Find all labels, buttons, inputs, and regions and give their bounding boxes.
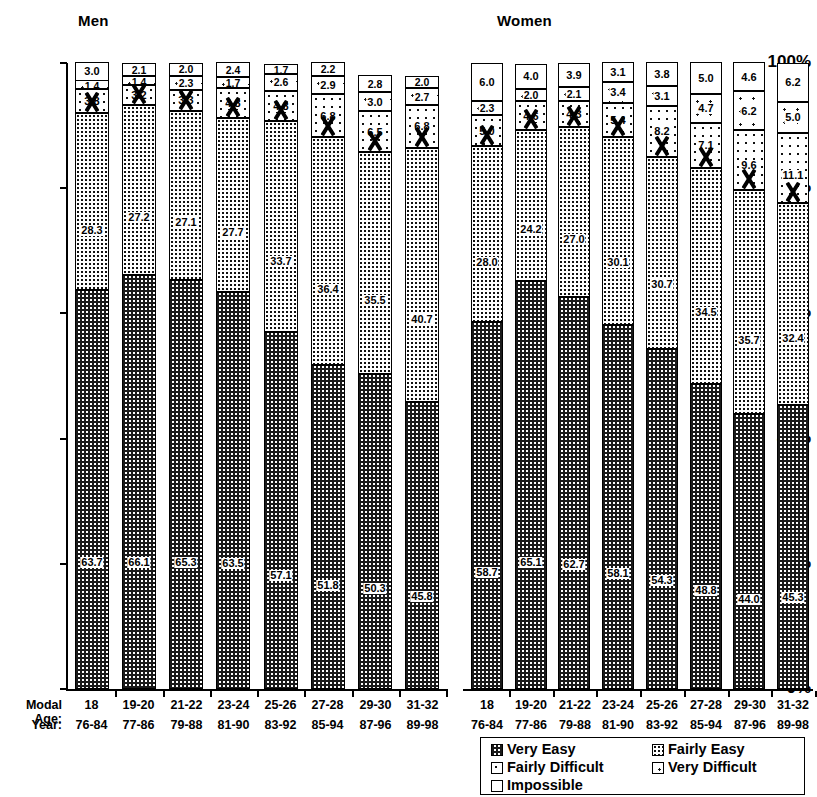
bar-segment-fairly-easy: 30.1	[602, 137, 634, 325]
bar-segment-value-label: 6.8	[413, 121, 430, 132]
bar-segment-value-label: 3.3	[177, 95, 194, 106]
x-axis-modal-age-label: 19-20	[509, 698, 553, 712]
legend-item-very-easy[interactable]: Very Easy	[491, 742, 576, 757]
legend-item-fairly-easy[interactable]: Fairly Easy	[652, 742, 745, 757]
legend-item-very-difficult[interactable]: Very Difficult	[652, 760, 757, 775]
bar-column: 54.330.78.23.13.8	[646, 63, 678, 689]
bar-segment-value-label: 30.7	[650, 279, 673, 290]
legend-row: Fairly Difficult Very Difficult	[489, 760, 798, 778]
legend: Very Easy Fairly Easy Fairly Difficult V…	[480, 737, 805, 795]
bar-segment-value-label: 1.4	[84, 81, 101, 89]
x-axis-year-label: 81-90	[596, 718, 640, 732]
bar-segment-value-label: 4.8	[224, 98, 241, 109]
bar-segment-fairly-difficult: 3.8	[75, 89, 109, 113]
bar-segment-value-label: 33.7	[269, 256, 292, 267]
y-axis-tick-mark	[60, 187, 67, 189]
x-axis-modal-age-label: 29-30	[728, 698, 772, 712]
bar-segment-fairly-easy: 36.4	[311, 137, 345, 365]
y-axis-tick-mark	[60, 438, 67, 440]
bar-segment-value-label: 3.1	[609, 67, 626, 78]
bar-column: 50.335.56.53.02.8	[358, 63, 392, 689]
bar-segment-very-easy: 66.1	[122, 275, 156, 689]
legend-label: Impossible	[507, 778, 583, 793]
bar-segment-fairly-difficult: 3.3	[169, 90, 203, 111]
bar-segment-value-label: 3.8	[83, 96, 100, 107]
bar-segment-impossible: 1.7	[264, 64, 298, 75]
x-axis-modal-age-label: 19-20	[115, 698, 162, 712]
bar-segment-value-label: 2.7	[414, 92, 431, 103]
bar-segment-value-label: 5.0	[697, 73, 714, 84]
bar-segment-impossible: 6.2	[777, 63, 809, 102]
bar-column: 45.332.411.15.06.2	[777, 63, 809, 689]
bar-segment-impossible: 4.0	[515, 64, 547, 89]
bar-segment-value-label: 58.7	[475, 567, 498, 578]
x-axis-modal-age-label: 18	[465, 698, 509, 712]
legend-item-impossible[interactable]: Impossible	[491, 778, 583, 793]
x-axis-tick-mark	[596, 691, 598, 697]
bar-segment-value-label: 2.3	[479, 103, 496, 114]
panel-title-men: Men	[78, 12, 109, 29]
bar-segment-value-label: 8.2	[653, 126, 670, 137]
bar-segment-value-label: 4.6	[740, 72, 757, 83]
bar-segment-value-label: 36.4	[316, 284, 339, 295]
x-axis-modal-age-label: 27-28	[304, 698, 351, 712]
bar-segment-value-label: 34.5	[694, 307, 717, 318]
x-axis-modal-age-label: 31-32	[399, 698, 446, 712]
bar-segment-value-label: 50.3	[363, 583, 386, 594]
bar-segment-very-easy: 63.5	[216, 292, 250, 690]
bar-segment-value-label: 44.0	[737, 594, 760, 605]
bar-segment-very-easy: 58.7	[471, 322, 503, 689]
bar-segment-value-label: 51.8	[316, 580, 339, 591]
bar-segment-value-label: 57.1	[269, 570, 292, 581]
bar-column: 63.527.74.81.72.4	[216, 63, 250, 689]
bar-segment-value-label: 1.4	[131, 77, 148, 85]
x-axis-tick-mark	[163, 691, 165, 697]
x-axis-modal-age-label: 25-26	[640, 698, 684, 712]
bar-segment-value-label: 24.2	[519, 224, 542, 235]
bar-segment-impossible: 3.8	[646, 62, 678, 86]
legend-item-fairly-difficult[interactable]: Fairly Difficult	[491, 760, 604, 775]
bar-segment-very-easy: 57.1	[264, 332, 298, 689]
bar-segment-very-easy: 58.1	[602, 325, 634, 689]
x-axis-tick-mark	[684, 691, 686, 697]
bar-segment-value-label: 3.9	[565, 70, 582, 81]
x-axis-year-label: 83-92	[257, 718, 304, 732]
bar-segment-impossible: 3.9	[558, 63, 590, 87]
x-axis-year-label: 87-96	[728, 718, 772, 732]
bar-segment-impossible: 5.0	[690, 62, 722, 93]
bar-segment-impossible: 2.0	[405, 76, 439, 89]
bar-segment-impossible: 4.6	[733, 62, 765, 91]
bar-segment-very-easy: 45.3	[777, 405, 809, 689]
x-axis-modal-age-label: 23-24	[596, 698, 640, 712]
bar-segment-value-label: 63.7	[80, 557, 103, 568]
bar-segment-impossible: 6.0	[471, 63, 503, 101]
bar-segment-value-label: 48.8	[694, 585, 717, 596]
bar-segment-fairly-difficult: 6.5	[358, 111, 392, 152]
bar-segment-fairly-difficult: 4.6	[515, 101, 547, 130]
bar-segment-value-label: 2.0	[414, 77, 431, 88]
bar-segment-fairly-easy: 35.7	[733, 190, 765, 413]
fairly-easy-swatch-icon	[652, 744, 664, 756]
bar-segment-impossible: 2.0	[169, 63, 203, 76]
bar-segment-fairly-easy: 27.7	[216, 118, 250, 291]
bar-column: 66.127.23.21.42.1	[122, 63, 156, 689]
bar-segment-value-label: 35.5	[363, 295, 386, 306]
legend-row: Very Easy Fairly Easy	[489, 742, 798, 760]
impossible-swatch-icon	[491, 780, 503, 792]
bar-segment-value-label: 1.7	[225, 78, 242, 88]
x-axis-year-label: 85-94	[684, 718, 728, 732]
bar-segment-value-label: 27.7	[221, 227, 244, 238]
bar-segment-fairly-easy: 34.5	[690, 168, 722, 384]
bar-segment-fairly-easy: 33.7	[264, 121, 298, 332]
bar-segment-value-label: 62.7	[562, 559, 585, 570]
x-axis-year-label: 79-88	[163, 718, 210, 732]
bar-segment-fairly-difficult: 6.8	[405, 105, 439, 148]
x-axis-modal-age-label: 25-26	[257, 698, 304, 712]
bar-segment-value-label: 7.1	[697, 140, 714, 151]
bar-segment-fairly-difficult: 6.8	[311, 94, 345, 137]
panel-title-women: Women	[497, 12, 552, 29]
bar-segment-impossible: 2.1	[122, 63, 156, 76]
x-axis-tick-mark	[210, 691, 212, 697]
bar-segment-fairly-difficult: 4.3	[558, 101, 590, 128]
bar-segment-value-label: 6.5	[366, 127, 383, 138]
